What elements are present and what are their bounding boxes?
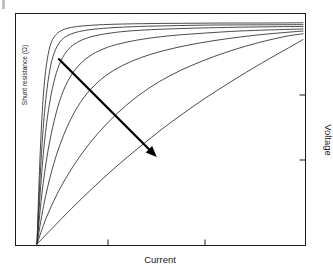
x-axis-label: Current <box>144 254 176 265</box>
trend-arrow-annotation <box>58 59 156 157</box>
curve-1 <box>37 23 303 244</box>
curve-2 <box>37 25 303 244</box>
curve-5 <box>37 31 303 244</box>
curve-6 <box>37 34 303 244</box>
chart-canvas: Current Voltage Shunt resistance (Ω) <box>0 0 333 276</box>
y-axis-ticks <box>300 95 306 160</box>
chart-figure: Current Voltage Shunt resistance (Ω) <box>0 0 333 276</box>
x-axis-ticks <box>108 240 205 246</box>
curve-3 <box>37 26 303 244</box>
curve-7 <box>37 40 303 245</box>
curve-group <box>37 23 303 244</box>
corner-artifact <box>2 0 5 9</box>
plot-frame <box>16 14 306 246</box>
y-axis-label-shunt-resistance: Shunt resistance (Ω) <box>21 45 29 105</box>
arrow-shaft <box>58 59 151 152</box>
curve-4 <box>37 29 303 244</box>
y-axis-label-voltage: Voltage <box>323 124 333 156</box>
